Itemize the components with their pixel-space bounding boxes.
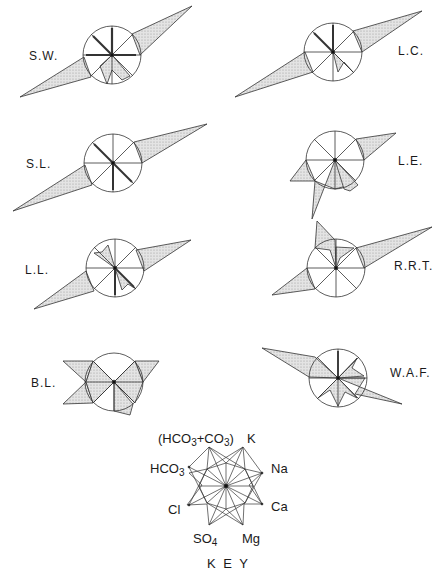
star-plot-bl	[63, 353, 159, 415]
star-plot-lc	[235, 11, 422, 97]
key-star	[187, 447, 263, 525]
panel-label-rrt: R.R.T.	[394, 259, 433, 273]
star-plot-waf	[262, 348, 402, 407]
panel-label-le: L.E.	[398, 154, 423, 168]
panel-label-sl: S.L.	[26, 157, 51, 171]
key-label-hco3-co3: (HCO3+CO3)	[158, 431, 234, 448]
panel-label-waf: W.A.F.	[390, 366, 431, 380]
key-label-so4: SO4	[193, 531, 217, 548]
key-label-cl: Cl	[168, 502, 180, 517]
key-title: K E Y	[207, 556, 250, 571]
key-label-ca: Ca	[271, 499, 288, 514]
key-label-mg: Mg	[242, 531, 260, 546]
panel-label-lc: L.C.	[398, 44, 424, 58]
ion-star-diagram	[0, 0, 447, 580]
key-label-k: K	[247, 431, 256, 446]
panel-label-sw: S.W.	[29, 49, 58, 63]
key-label-hco3: HCO3	[150, 461, 184, 478]
key-label-na: Na	[271, 461, 288, 476]
panel-label-ll: L.L.	[25, 263, 49, 277]
star-plot-ll	[34, 239, 191, 309]
panel-label-bl: B.L.	[31, 376, 56, 390]
star-plot-le	[290, 131, 396, 219]
